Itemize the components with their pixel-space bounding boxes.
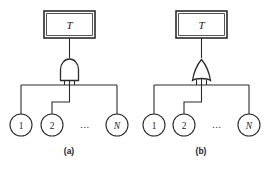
branch-line-2-b [184, 85, 202, 114]
basic-event-n-a: N [106, 114, 128, 136]
fault-tree-figure: T 1 2 [0, 0, 273, 171]
or-gate-symbol-b [193, 60, 211, 81]
basic-event-2-a: 2 [41, 114, 63, 136]
basic-event-2-b: 2 [173, 114, 195, 136]
basic-event-label-2-a: 2 [50, 121, 55, 131]
basic-event-ellipsis-a: ... [80, 119, 89, 130]
panel-caption-a: (a) [64, 146, 75, 156]
basic-event-n-b: N [238, 114, 260, 136]
top-event-box-b: T [176, 11, 227, 38]
figure-container: T 1 2 [0, 0, 273, 171]
top-event-box-a: T [44, 11, 95, 38]
basic-event-label-1-b: 1 [152, 121, 157, 131]
basic-event-1-a: 1 [10, 114, 32, 136]
panel-b: T 1 2 [143, 11, 260, 156]
top-event-label-a: T [66, 19, 73, 31]
basic-event-label-n-b: N [245, 121, 253, 131]
basic-event-1-b: 1 [143, 114, 165, 136]
basic-event-label-n-a: N [113, 121, 121, 131]
branch-line-2-a [52, 85, 70, 114]
basic-event-label-1-a: 1 [19, 121, 24, 131]
basic-event-ellipsis-b: ... [212, 119, 221, 130]
top-event-label-b: T [198, 19, 205, 31]
basic-event-label-2-b: 2 [182, 121, 187, 131]
panel-caption-b: (b) [196, 146, 207, 156]
and-gate-symbol-a [61, 59, 79, 81]
panel-a: T 1 2 [10, 11, 128, 156]
